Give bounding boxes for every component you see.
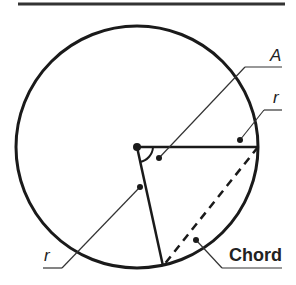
leader-radius-bottom xyxy=(62,187,140,268)
center-point xyxy=(133,143,141,151)
leader-angle-dot xyxy=(156,155,162,161)
radius-slanted xyxy=(137,147,163,266)
label-angle: A xyxy=(269,46,281,65)
angle-arc xyxy=(140,147,153,162)
leader-chord-dot xyxy=(193,237,199,243)
label-radius-top: r xyxy=(273,88,280,107)
leader-angle xyxy=(159,67,245,158)
leader-radius-top-dot xyxy=(237,137,243,143)
label-chord: Chord xyxy=(229,245,282,265)
leader-radius-bottom-dot xyxy=(137,184,143,190)
circle-diagram: A r r Chord xyxy=(0,0,296,285)
label-radius-bottom: r xyxy=(44,246,51,265)
